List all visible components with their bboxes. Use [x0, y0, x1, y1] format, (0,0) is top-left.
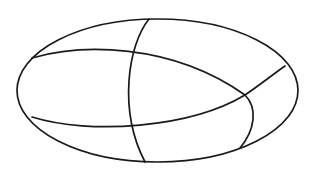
outer-ellipse: [17, 19, 298, 162]
upper-arc: [32, 50, 245, 95]
ellipse-diagram: [0, 0, 317, 174]
vertical-arc: [129, 19, 149, 162]
right-lower-arc: [240, 95, 253, 148]
lower-arc: [32, 95, 245, 127]
right-spur: [245, 66, 285, 95]
